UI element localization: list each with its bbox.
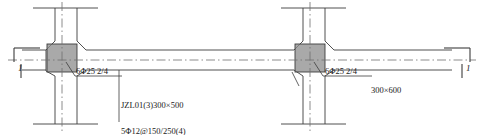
column-section-size-label: 300×600: [371, 86, 401, 95]
beam-spec-line-1: JZL01(3)300×500: [121, 101, 186, 110]
leader-column-size: [292, 72, 299, 86]
beam-spec-line-2: 5Φ12@150/250(4): [121, 127, 186, 135]
section-marker-right-label: 1: [466, 63, 471, 73]
drawing-vector-layer: [0, 0, 484, 135]
section-marker-left-label: 1: [18, 63, 23, 73]
beam-specification-block: JZL01(3)300×500 5Φ12@150/250(4) B4Φ25;T4…: [121, 84, 186, 135]
structural-drawing-canvas: 6Φ25 2/4 6Φ25 2/4 300×600 JZL01(3)300×50…: [0, 0, 484, 135]
left-top-rebar-callout: 6Φ25 2/4: [76, 67, 108, 76]
right-top-rebar-callout: 6Φ25 2/4: [325, 67, 357, 76]
